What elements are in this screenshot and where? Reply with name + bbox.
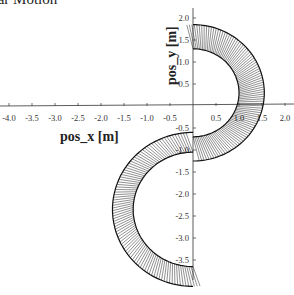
x-tick-label: 0.5 bbox=[211, 113, 222, 123]
y-tick-label: 2.0 bbox=[178, 13, 189, 23]
y-tick-label: 1.5 bbox=[178, 35, 189, 45]
y-tick-label: -1.5 bbox=[176, 167, 189, 177]
x-tick-label: -1.0 bbox=[140, 113, 153, 123]
trajectory-chart: -4.0-3.5-3.0-2.5-2.0-1.5-1.0-0.50.51.01.… bbox=[0, 0, 294, 295]
x-tick-label: -0.5 bbox=[163, 113, 176, 123]
y-tick-label: -2.0 bbox=[176, 189, 189, 199]
x-tick-label: -3.5 bbox=[25, 113, 38, 123]
x-tick-label: -4.0 bbox=[2, 113, 15, 123]
y-tick-label: -2.5 bbox=[176, 211, 189, 221]
x-tick-label: -1.5 bbox=[117, 113, 130, 123]
y-tick-label: 0.5 bbox=[178, 79, 189, 89]
trajectory-band-0 bbox=[187, 25, 265, 161]
x-tick-label: -2.5 bbox=[71, 113, 84, 123]
y-tick-label: 1.0 bbox=[178, 57, 189, 67]
y-tick-label: -3.5 bbox=[176, 255, 189, 265]
y-tick-label: -0.5 bbox=[176, 123, 189, 133]
x-tick-label: -2.0 bbox=[94, 113, 107, 123]
y-tick-label: -3.0 bbox=[176, 233, 189, 243]
x-tick-label: -3.0 bbox=[48, 113, 61, 123]
x-tick-label: 2.0 bbox=[280, 113, 291, 123]
x-axis-label: pos_x [m] bbox=[60, 129, 119, 144]
y-axis-label: pos_y [m] bbox=[164, 26, 179, 85]
